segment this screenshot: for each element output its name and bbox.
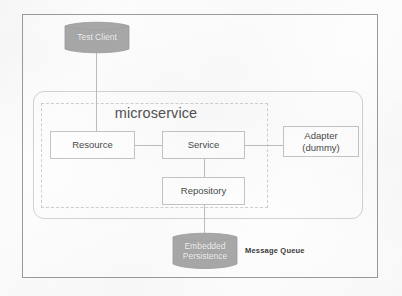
connector-test-client-to-resource xyxy=(96,52,97,133)
microservice-title: microservice xyxy=(106,105,206,121)
datastore-embedded-persistence[interactable]: Embedded Persistence xyxy=(172,230,238,271)
component-service[interactable]: Service xyxy=(162,131,245,159)
component-resource[interactable]: Resource xyxy=(50,131,135,159)
component-resource-label: Resource xyxy=(72,139,113,151)
component-adapter-label-secondary: (dummy) xyxy=(302,142,339,154)
datastore-persistence-label-line1: Embedded xyxy=(172,241,238,251)
component-repository[interactable]: Repository xyxy=(162,177,245,205)
datastore-embedded-persistence-label: Embedded Persistence xyxy=(172,241,238,261)
datastore-test-client-label: Test Client xyxy=(64,32,130,42)
connector-repository-to-persistence xyxy=(204,204,205,233)
component-repository-label: Repository xyxy=(181,185,226,197)
datastore-persistence-label-line2: Persistence xyxy=(172,251,238,261)
component-adapter-label-primary: Adapter xyxy=(304,130,337,142)
connector-service-to-adapter xyxy=(244,145,284,146)
connector-service-to-repository xyxy=(204,158,205,178)
connector-resource-to-service xyxy=(134,145,163,146)
datastore-test-client[interactable]: Test Client xyxy=(64,20,130,55)
component-adapter[interactable]: Adapter (dummy) xyxy=(283,126,359,157)
diagram-canvas: microservice Resource Service Adapter (d… xyxy=(0,0,402,296)
component-service-label: Service xyxy=(188,139,220,151)
message-queue-annotation: Message Queue xyxy=(245,246,305,255)
